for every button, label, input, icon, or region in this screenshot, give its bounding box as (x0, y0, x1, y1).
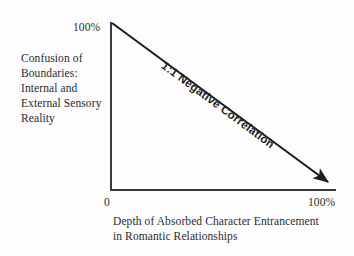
x-axis-max-tick-label: 100% (308, 196, 335, 209)
y-axis-title-line-2: Boundaries: (21, 66, 107, 81)
y-axis-title-line-5: Reality (21, 111, 107, 126)
x-axis-zero-tick-label: 0 (104, 196, 110, 209)
y-axis-title-line-3: Internal and (21, 81, 107, 96)
trend-line-label: 1:1 Negative Correlation (159, 59, 276, 150)
x-axis-title: Depth of Absorbed Character Entrancement… (113, 214, 353, 244)
x-axis-line (110, 189, 336, 191)
correlation-chart-figure: 1:1 Negative Correlation 100% 0 100% Con… (0, 0, 354, 256)
y-axis-line (110, 22, 112, 191)
x-axis-title-line-2: in Romantic Relationships (113, 229, 353, 244)
y-axis-max-tick-label: 100% (73, 21, 100, 34)
y-axis-title-line-4: External Sensory (21, 96, 107, 111)
x-axis-title-line-1: Depth of Absorbed Character Entrancement (113, 214, 353, 229)
y-axis-title: Confusion of Boundaries: Internal and Ex… (21, 51, 107, 126)
y-axis-title-line-1: Confusion of (21, 51, 107, 66)
